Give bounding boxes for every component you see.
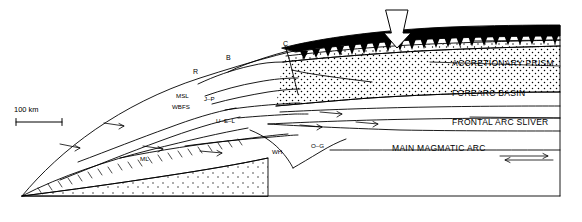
label-frontal-arc-sliver: FRONTAL ARC SLIVER [452,117,549,127]
label-b: B [226,54,231,61]
fault-uel [238,114,308,118]
figure-canvas: 100 km OCEANIC CRUST ACCRETIONARY PRISM … [0,0,582,222]
label-r: R [193,68,198,75]
strike-slip-arrows [500,154,553,163]
scale-bar-label: 100 km [14,105,39,114]
label-accretionary-prism: ACCRETIONARY PRISM [452,58,554,68]
label-c: C [283,40,288,47]
label-j-p: J–P [204,95,215,102]
label-wbfs: WBFS [172,103,190,110]
label-wh: WH [272,148,282,155]
label-main-magmatic-arc: MAIN MAGMATIC ARC [392,143,486,153]
label-o-g: O–G [311,142,324,149]
label-ml: ML [140,155,149,162]
label-oceanic-crust: OCEANIC CRUST [452,25,526,35]
label-forearc-basin: FOREARC BASIN [452,88,525,98]
label-u-e-l: U–E–L [216,117,235,124]
label-msl: MSL [176,92,189,99]
frontal-arc-internal-1 [280,106,560,112]
lower-wedge-stipple [22,158,268,196]
scale-bar [16,119,62,126]
